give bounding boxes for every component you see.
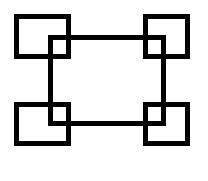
corner-square-bottom-left <box>14 102 71 146</box>
corner-square-top-left <box>14 14 71 59</box>
corner-square-bottom-right <box>143 102 190 146</box>
corner-square-top-right <box>143 14 190 59</box>
